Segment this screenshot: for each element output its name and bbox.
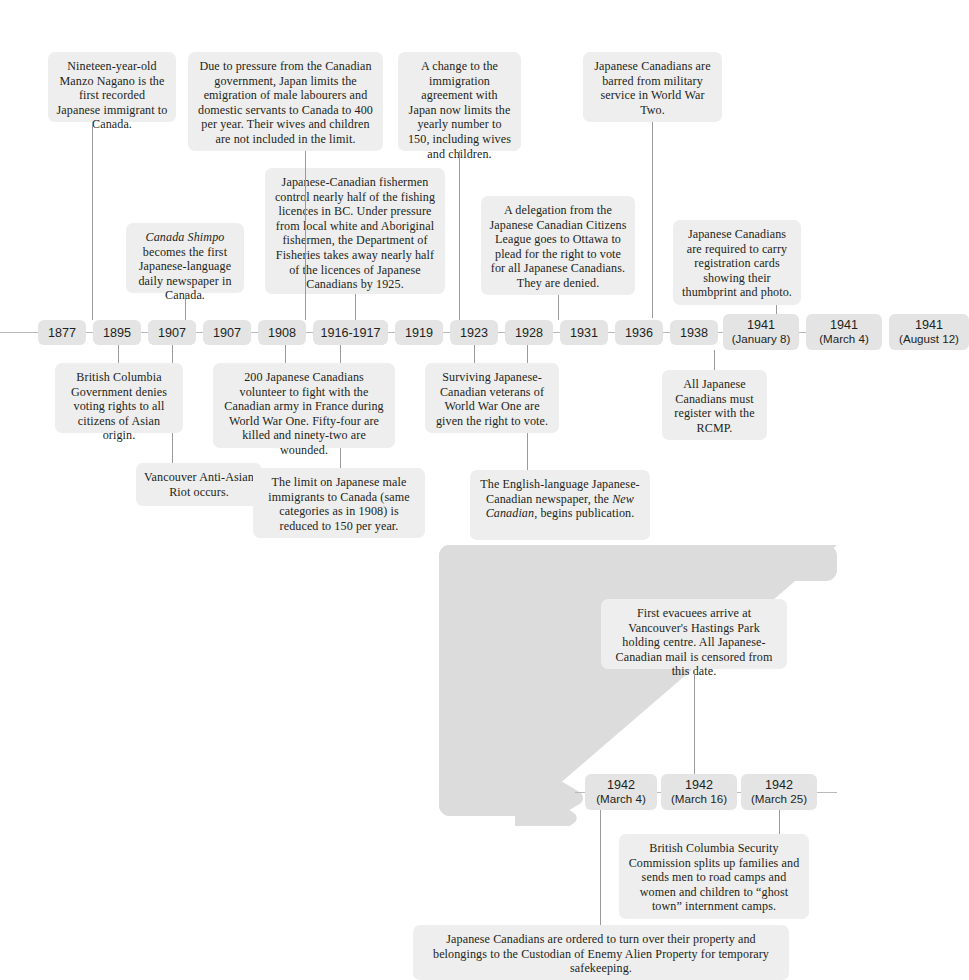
note-1938-new-canadian: The English-language Japanese-Canadian n…	[470, 470, 650, 540]
note-1936-delegation: A delegation from the Japanese Canadian …	[481, 196, 635, 295]
note-text-post: , begins publication.	[534, 506, 634, 520]
year-chip-1942-march-16[interactable]: 1942 (March 16)	[661, 774, 737, 810]
year-chip-1907-a[interactable]: 1907	[148, 320, 196, 345]
note-1908: Due to pressure from the Canadian govern…	[188, 52, 383, 151]
connector-1916-below	[285, 345, 286, 363]
year-chip-1928[interactable]: 1928	[505, 320, 553, 345]
year-label: 1919	[405, 326, 433, 340]
note-1877: Nineteen-year-old Manzo Nagano is the fi…	[48, 52, 176, 122]
connector-1941-march-below	[714, 350, 715, 370]
year-chip-1931[interactable]: 1931	[560, 320, 608, 345]
year-chip-1941-january-8[interactable]: 1941 (January 8)	[723, 314, 799, 350]
year-label: 1907	[158, 326, 186, 340]
note-1941-january: Japanese Canadians are barred from milit…	[583, 52, 722, 122]
year-chip-1923[interactable]: 1923	[450, 320, 498, 345]
year-label: 1907	[213, 326, 241, 340]
year-chip-1908[interactable]: 1908	[258, 320, 306, 345]
year-label: 1931	[570, 326, 598, 340]
year-label: 1941	[915, 318, 943, 332]
note-1928: A change to the immigration agreement wi…	[398, 52, 521, 151]
connector-1919-fisheries	[355, 294, 356, 320]
note-1931: Surviving Japanese-Canadian veterans of …	[425, 363, 559, 433]
note-1907-riot: Vancouver Anti-Asian Riot occurs.	[136, 463, 262, 506]
connector-1941-january	[652, 122, 653, 318]
year-chip-1936[interactable]: 1936	[615, 320, 663, 345]
year-label: 1923	[460, 326, 488, 340]
year-label: 1938	[680, 326, 708, 340]
year-chip-1907-b[interactable]: 1907	[203, 320, 251, 345]
note-1942-march-16: First evacuees arrive at Vancouver's Has…	[601, 599, 787, 669]
note-1916-1917: 200 Japanese Canadians volunteer to figh…	[213, 363, 395, 448]
year-chip-1941-august-12[interactable]: 1941 (August 12)	[889, 314, 969, 350]
newspaper-title-italic: Canada Shimpo	[146, 230, 225, 244]
year-chip-1919[interactable]: 1919	[395, 320, 443, 345]
connector-1908	[305, 151, 306, 320]
year-label: 1908	[268, 326, 296, 340]
note-1942-march-25: British Columbia Security Commission spl…	[619, 834, 809, 919]
year-label: 1942	[765, 778, 793, 792]
note-1942-march-4: Japanese Canadians are ordered to turn o…	[413, 925, 789, 980]
year-chip-1942-march-4[interactable]: 1942 (March 4)	[585, 774, 657, 810]
note-1895: British Columbia Government denies votin…	[55, 363, 183, 433]
year-label: 1936	[625, 326, 653, 340]
connector-1942-march-16	[694, 669, 695, 780]
connector-1931-below	[474, 345, 475, 363]
year-chip-1916-1917[interactable]: 1916-1917	[313, 320, 388, 345]
year-chip-1941-march-4[interactable]: 1941 (March 4)	[806, 314, 882, 350]
connector-1877	[92, 122, 93, 320]
year-date-label: (March 4)	[596, 792, 646, 806]
year-date-label: (January 8)	[732, 332, 791, 346]
connector-1936-delegation	[558, 295, 559, 320]
year-chip-1942-march-25[interactable]: 1942 (March 25)	[741, 774, 817, 810]
connector-1942-march-4-below	[600, 810, 601, 925]
note-1907-canada-shimpo: Canada Shimpo becomes the first Japanese…	[126, 223, 244, 293]
year-label: 1877	[48, 326, 76, 340]
year-label: 1942	[685, 778, 713, 792]
note-1919-fisheries: Japanese-Canadian fishermen control near…	[265, 168, 445, 294]
connector-1942-march-25-below	[779, 810, 780, 834]
year-label: 1941	[830, 318, 858, 332]
connector-1907-shimpo	[185, 293, 186, 320]
note-1941-august: Japanese Canadians are required to carry…	[673, 220, 801, 305]
year-label: 1928	[515, 326, 543, 340]
year-date-label: (August 12)	[899, 332, 959, 346]
year-label: 1895	[103, 326, 131, 340]
note-1941-march: All Japanese Canadians must register wit…	[662, 370, 767, 440]
connector-1895-below	[118, 345, 119, 363]
connector-1928	[459, 151, 460, 320]
year-date-label: (March 25)	[751, 792, 807, 806]
year-chip-1938[interactable]: 1938	[670, 320, 718, 345]
year-label: 1941	[747, 318, 775, 332]
note-1923: The limit on Japanese male immigrants to…	[253, 468, 425, 538]
year-label: 1942	[607, 778, 635, 792]
year-date-label: (March 4)	[819, 332, 869, 346]
year-chip-1877[interactable]: 1877	[38, 320, 86, 345]
year-chip-1895[interactable]: 1895	[93, 320, 141, 345]
year-date-label: (March 16)	[671, 792, 727, 806]
year-label: 1916-1917	[320, 326, 380, 340]
